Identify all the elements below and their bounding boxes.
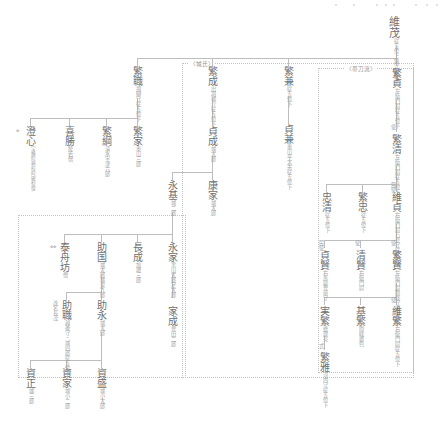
node-annotation: 従五位下: [360, 212, 365, 232]
node-annotation: 黒山太郎: [170, 262, 175, 282]
node-name: 繁兼: [282, 66, 292, 86]
node-annotation: 奥山平太夫: [286, 144, 291, 169]
node-annotation: 城三郎: [28, 388, 33, 403]
node-sukemasa[interactable]: 資正 城三郎: [24, 368, 34, 403]
node-name: 実繁: [318, 306, 328, 326]
node-annotation: 城太郎: [210, 146, 215, 161]
node-shigekiyo-prefix: 使: [390, 124, 396, 129]
node-sukemori[interactable]: 資盛 城小太郎: [95, 368, 105, 408]
node-prefix: 使: [390, 297, 395, 302]
node-taishubo[interactable]: 泰舟坊 僧: [58, 242, 68, 277]
node-name: 維繁: [390, 306, 400, 326]
node-sadakata[interactable]: 貞賢 右馬助 豊前守: [318, 250, 328, 300]
node-name: 繁賢: [390, 250, 400, 270]
node-koreshige[interactable]: 維繁 右衛門尉 従五位下: [390, 306, 400, 366]
node-prefix: 使: [390, 124, 395, 129]
node-sukeie[interactable]: 資家 城小二郎: [60, 368, 70, 408]
node-name: 資盛: [95, 368, 105, 388]
node-annotation: 宝輪院頼校: [29, 146, 34, 171]
line-gen1-bus: [137, 58, 397, 59]
node-annotation: 加地三郎: [135, 262, 140, 282]
node-shigetada[interactable]: 繁忠 従五位下: [356, 192, 366, 232]
node-name: 長成: [131, 242, 141, 262]
node-annotation: 阿闍梨: [29, 171, 34, 186]
node-shigeie[interactable]: 繁家 奥山三郎: [131, 126, 141, 166]
node-annotation: 僧: [67, 156, 72, 161]
node-prefix: 民使: [318, 240, 323, 250]
line-gen4-naganari: [137, 234, 138, 242]
node-shigesada[interactable]: 繁貞 左衛門尉 従五位下: [390, 68, 400, 128]
node-tadakiyo[interactable]: 忠清 従五位下: [320, 192, 330, 232]
line-gen4-nagaie: [172, 234, 173, 242]
line-gen4-sukekuni: [101, 234, 102, 242]
node-koreshige-prefix: 使: [390, 297, 396, 302]
node-choshin[interactable]: 澄心 宝輪院頼校 阿闍梨 僧: [24, 126, 34, 191]
footnote-marker-taishubo: ※※: [50, 244, 56, 249]
node-annotation: 越後守・城四郎: [64, 320, 69, 355]
line-gen1-shigemoto: [137, 58, 138, 66]
node-name: 貞賢: [318, 250, 328, 270]
node-shigenari[interactable]: 繁成 出羽城介 従五位下: [206, 66, 216, 126]
node-annotation: 城小太郎: [99, 388, 104, 408]
node-kiyokata[interactable]: 清賢 右衛門尉: [354, 250, 364, 290]
node-shigetsuna[interactable]: 繁綱 清水 宇津六郎: [100, 126, 110, 176]
node-name: 繁忠: [356, 192, 366, 212]
node-name: 繁職: [131, 66, 141, 86]
node-koresada-prefix: 民使: [390, 182, 396, 192]
node-shigekata-prefix: 使: [390, 240, 396, 245]
node-name: 忠清: [320, 192, 330, 212]
node-annotation: 奥山三郎: [135, 146, 140, 166]
node-sadanari[interactable]: 貞成 城太郎: [206, 126, 216, 161]
node-name: 永家: [166, 242, 176, 262]
node-annotation: 城鬼九郎: [99, 277, 104, 297]
node-name: 繁清: [390, 134, 400, 154]
node-annotation: 陸若: [67, 146, 72, 156]
node-annotation: 城太郎: [99, 320, 104, 335]
node-rename-note: 改名長茂: [52, 300, 57, 320]
node-motoshige[interactable]: 基繁 隠岐雑色: [354, 306, 364, 346]
node-sukemoto[interactable]: 助職 越後守・城四郎 従五位下: [60, 300, 70, 375]
node-yasuie[interactable]: 康家 城太郎: [206, 180, 216, 215]
node-name: 繁成: [206, 66, 216, 86]
line-gen4-right-bus: [326, 184, 396, 185]
node-sanenari[interactable]: 実繁 修理亮: [318, 306, 328, 341]
node-sukenaga[interactable]: 助永 城太郎: [95, 300, 105, 335]
node-annotation: 隠岐雑色: [358, 326, 363, 346]
node-nagamoto[interactable]: 永基 城二郎: [166, 180, 176, 215]
line-gen2-choshin: [30, 118, 31, 126]
node-name: 繁綱: [100, 126, 110, 146]
node-annotation: 右衛門尉: [394, 212, 399, 232]
line-gen4-taishubo: [64, 234, 65, 242]
node-name: 資正: [24, 368, 34, 388]
footnote-marker-choshin: ※: [16, 128, 19, 133]
node-kiyokata-prefix: 使: [354, 240, 360, 245]
line-gen6-motoshige: [360, 297, 361, 305]
node-name: 永基: [166, 180, 176, 200]
node-name: 基繁: [354, 306, 364, 326]
scan-artifact-top: [330, 2, 446, 9]
node-nagaie[interactable]: 永家 黒山太郎 足太郎: [166, 242, 176, 297]
node-name: 貞兼: [282, 124, 292, 144]
node-sadakata-prefix: 民使: [318, 240, 324, 250]
node-sadakane[interactable]: 貞兼 奥山平太夫 従五位下: [282, 124, 292, 189]
node-shigekane[interactable]: 繁兼 従五位下: [282, 66, 292, 106]
node-name: 貞成: [206, 126, 216, 146]
node-shigemoto[interactable]: 繁職 飛騨守 従五位下: [131, 66, 141, 121]
node-ienari[interactable]: 家成 豊田二郎: [166, 306, 176, 346]
node-annotation: 従五位下: [210, 106, 215, 126]
node-annotation: 従五位下: [135, 101, 140, 121]
line-gen3-bus: [172, 172, 212, 173]
line-sukenaga-down: [101, 332, 102, 360]
line-gen3-nagamoto: [172, 172, 173, 180]
node-prefix: 使: [390, 240, 395, 245]
line-gen5-sukemoto: [66, 292, 67, 300]
node-annotation: 左衛門尉: [394, 88, 399, 108]
node-sukekuni[interactable]: 助国 城太郎 城鬼九郎: [95, 242, 105, 297]
node-naganari[interactable]: 長成 加地三郎: [131, 242, 141, 282]
node-yoshikatsu[interactable]: 喜勝 陸若 僧: [63, 126, 73, 161]
node-name: 喜勝: [63, 126, 73, 146]
line-gen5-sadakata: [324, 240, 325, 248]
line-gen1-shigenari: [212, 58, 213, 66]
node-shigemasa[interactable]: 繁雅 河内守 従五位下: [318, 352, 328, 407]
genealogy-chart: 〈城氏〉 〈帯刀流〉: [0, 0, 447, 441]
